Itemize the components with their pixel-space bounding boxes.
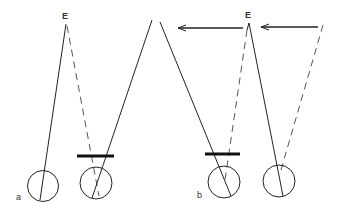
dashed-axis-right-eye-b xyxy=(281,25,323,170)
dashed-axis-right-eye-a xyxy=(67,26,99,196)
panel-b: E b xyxy=(160,10,323,200)
right-eye-a xyxy=(80,167,112,199)
panel-label-b: b xyxy=(197,190,202,200)
arrow-left-1 xyxy=(178,25,243,31)
diagram-canvas: E a E xyxy=(0,0,339,208)
left-eye-b xyxy=(208,166,240,198)
right-eye-b xyxy=(263,165,295,197)
visual-axis-right-eye-b xyxy=(249,23,283,196)
deviated-axis-right-eye-a xyxy=(92,20,152,198)
left-eye-a xyxy=(28,171,59,202)
target-label-b: E xyxy=(245,10,251,20)
dashed-axis-left-eye-b xyxy=(225,30,247,180)
panel-label-a: a xyxy=(16,192,21,202)
target-label-a: E xyxy=(62,11,68,21)
deviated-axis-left-eye-b xyxy=(160,22,231,196)
arrow-left-2 xyxy=(261,24,318,30)
panel-a: E a xyxy=(16,11,152,202)
